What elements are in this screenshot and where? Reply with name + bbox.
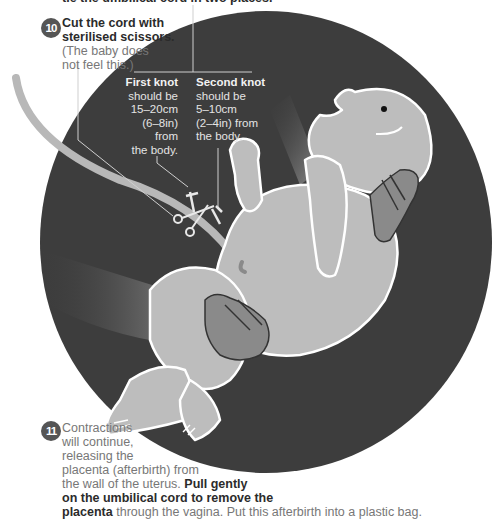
first-knot-line: (6–8in) from — [118, 117, 178, 144]
second-knot-line: the body. — [196, 130, 276, 144]
first-knot-line: 15–20cm — [118, 103, 178, 117]
previous-step-text: tie the umbilical cord in two places. — [62, 0, 272, 5]
first-knot-line: should be — [118, 90, 178, 104]
step-10-note-line1: (The baby does — [62, 44, 175, 58]
baby-eye — [381, 106, 387, 112]
step-11-line: Contractions — [62, 421, 502, 435]
step-11-line: will continue, — [62, 435, 502, 449]
step-10-text: Cut the cord with sterilised scissors. (… — [62, 16, 175, 72]
second-knot-label: Second knot should be 5–10cm (2–4in) fro… — [196, 76, 276, 144]
step-10-badge: 10 — [41, 18, 61, 38]
step-11-line: the wall of the uterus. Pull gently — [62, 477, 502, 491]
step-10-title-line2: sterilised scissors. — [62, 30, 175, 44]
second-knot-line: 5–10cm — [196, 103, 276, 117]
first-knot-title: First knot — [118, 76, 178, 90]
step-11-line: releasing the — [62, 449, 502, 463]
step-11-text: Contractions will continue, releasing th… — [62, 421, 502, 519]
step-11-text-normal: through the vagina. Put this afterbirth … — [116, 505, 422, 519]
step-11-text-bold: placenta — [62, 505, 113, 519]
step-11-text-normal: the wall of the uterus. — [62, 477, 181, 491]
first-knot-label: First knot should be 15–20cm (6–8in) fro… — [118, 76, 178, 157]
second-knot-line: (2–4in) from — [196, 117, 276, 131]
step-11-badge: 11 — [41, 421, 61, 441]
step-11-line: placenta (afterbirth) from — [62, 463, 502, 477]
first-knot-line: the body. — [118, 144, 178, 158]
step-11-line: placenta through the vagina. Put this af… — [62, 505, 502, 519]
step-11-text-bold: Pull gently — [184, 477, 247, 491]
step-10-note-line2: not feel this.) — [62, 58, 175, 72]
second-knot-title: Second knot — [196, 76, 276, 90]
step-10-title-line1: Cut the cord with — [62, 16, 175, 30]
step-11-line: on the umbilical cord to remove the — [62, 491, 502, 505]
second-knot-line: should be — [196, 90, 276, 104]
